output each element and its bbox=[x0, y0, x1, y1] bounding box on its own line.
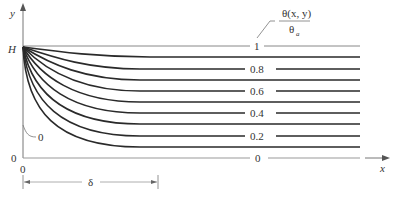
contour-label-0: 0 bbox=[255, 152, 261, 164]
contour-0.5 bbox=[23, 47, 360, 102]
contour-curves bbox=[23, 47, 360, 147]
contour-0.7 bbox=[23, 47, 360, 80]
contour-label-0.8: 0.8 bbox=[250, 63, 264, 75]
contour-0.9 bbox=[23, 47, 360, 57]
legend-denominator: θ bbox=[289, 23, 294, 35]
temperature-contour-diagram: y x H 0 0 1 0.8 0.6 0.4 0.2 0 0 θ(x, y) … bbox=[0, 0, 398, 197]
y-top-label: H bbox=[7, 43, 17, 55]
y-axis-label: y bbox=[9, 7, 15, 19]
x-axis-arrow-icon bbox=[382, 155, 390, 161]
contour-0.8 bbox=[23, 47, 360, 69]
x-axis-label: x bbox=[379, 162, 385, 174]
delta-arrow-left-icon bbox=[24, 180, 30, 184]
wall-contour-label: 0 bbox=[38, 131, 44, 143]
legend-denominator-sub: a bbox=[296, 30, 300, 38]
legend-numerator: θ(x, y) bbox=[282, 7, 311, 20]
contour-label-0.4: 0.4 bbox=[250, 107, 264, 119]
contour-label-0.6: 0.6 bbox=[250, 85, 264, 97]
contour-label-1: 1 bbox=[254, 40, 260, 52]
delta-label: δ bbox=[88, 176, 93, 188]
y-origin-label: 0 bbox=[11, 152, 17, 164]
x-origin-label: 0 bbox=[20, 163, 26, 175]
legend-leader bbox=[257, 21, 275, 38]
y-axis-arrow-icon bbox=[20, 3, 26, 11]
delta-arrow-right-icon bbox=[151, 180, 157, 184]
contour-label-0.2: 0.2 bbox=[250, 130, 264, 142]
wall-label-leader bbox=[23, 125, 36, 137]
